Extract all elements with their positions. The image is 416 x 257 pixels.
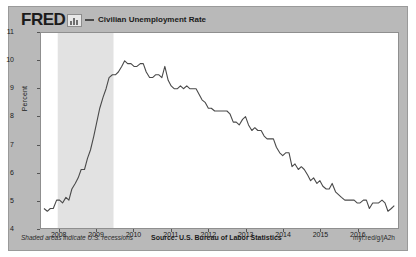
recession-band [58,33,114,228]
y-axis-label: Percent [21,76,28,122]
chart-footer: Shaded areas indicate U.S. recessions So… [9,234,407,246]
legend-series-label: Civilian Unemployment Rate [98,15,206,24]
x-tick-mark [208,229,209,232]
x-tick-mark [358,229,359,232]
y-tick-label: 4 [0,225,14,232]
fred-brand-logo: FRED [21,11,65,28]
y-tick-label: 11 [0,28,14,35]
unemployment-line-chart [41,33,398,228]
source-note: Source: U.S. Bureau of Labor Statistics [151,234,282,241]
y-tick-mark [37,32,40,33]
recession-note: Shaded areas indicate U.S. recessions [21,234,133,241]
y-tick-label: 8 [0,112,14,119]
x-tick-mark [246,229,247,232]
y-tick-label: 7 [0,141,14,148]
y-tick-mark [37,229,40,230]
y-tick-label: 9 [0,84,14,91]
y-tick-label: 5 [0,197,14,204]
y-tick-label: 10 [0,56,14,63]
legend-color-swatch [85,19,94,21]
x-tick-mark [171,229,172,232]
y-tick-mark [37,116,40,117]
x-tick-mark [59,229,60,232]
y-tick-mark [37,173,40,174]
plot-area [40,32,399,229]
fred-chart-card: FRED Civilian Unemployment Rate Percent … [8,6,408,251]
chart-legend: Civilian Unemployment Rate [85,15,206,24]
y-tick-mark [37,60,40,61]
y-tick-label: 6 [0,169,14,176]
x-tick-mark [320,229,321,232]
x-tick-mark [283,229,284,232]
recession-shading [58,33,114,228]
y-tick-mark [37,201,40,202]
fred-logo-mark-icon [67,14,82,27]
x-tick-mark [133,229,134,232]
short-link: myf.red/g/jA2h [353,234,395,241]
y-tick-mark [37,145,40,146]
x-tick-mark [96,229,97,232]
chart-header: FRED Civilian Unemployment Rate [9,7,407,31]
y-tick-mark [37,88,40,89]
